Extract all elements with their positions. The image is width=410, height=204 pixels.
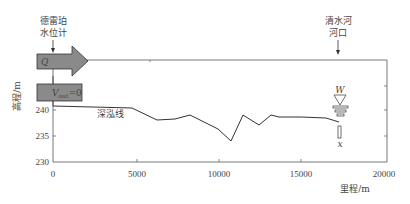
thalweg-label: 深泓线 [97, 108, 124, 119]
x-axis-title: 里程/m [340, 184, 370, 194]
water-level-weir-icon [333, 95, 348, 138]
gauge-label-line1: 德雷珀 [40, 15, 67, 26]
gauge-label-line2: 水位计 [40, 27, 67, 38]
y-axis-title: 高程/m [11, 81, 22, 111]
xtick-20000: 20000 [373, 169, 396, 179]
mouth-label-line2: 河口 [329, 27, 347, 38]
flow-q-label: Q [41, 57, 49, 67]
mouth-down-arrow-icon [336, 40, 340, 55]
thalweg-line [53, 106, 339, 141]
xtick-10000: 10000 [208, 169, 231, 179]
diagram-canvas: 240 235 230 0 5000 10000 15000 20000 里程/… [0, 0, 410, 204]
ytick-240: 240 [36, 105, 50, 115]
xtick-0: 0 [51, 169, 56, 179]
weir-w-label: W [335, 85, 345, 95]
weir-x-label: x [337, 139, 342, 149]
xtick-5000: 5000 [128, 169, 147, 179]
ytick-230: 230 [36, 157, 50, 167]
mouth-label-line1: 清水河 [325, 15, 352, 26]
gauge-down-arrow-icon [51, 40, 55, 53]
xtick-15000: 15000 [290, 169, 313, 179]
ytick-235: 235 [36, 131, 50, 141]
